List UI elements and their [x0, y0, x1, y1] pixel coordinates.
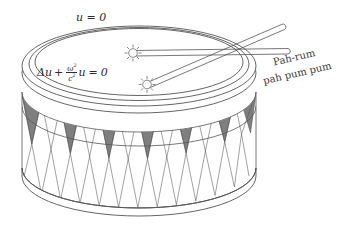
drum-figure: u = 0 Δu+ω2c2u=0 Pah-rum pah pum pum [0, 0, 347, 239]
equation-fraction: ω2c2 [66, 63, 77, 82]
equation-plus-sign: + [54, 66, 63, 79]
boundary-condition-label: u = 0 [76, 11, 106, 24]
equation-u-term: u [78, 66, 85, 79]
drum-illustration [0, 0, 347, 239]
equation-right-hand-side: 0 [101, 66, 108, 79]
equation-laplacian-term: Δu [37, 66, 52, 79]
strike-burst-upper [125, 45, 142, 62]
strike-burst-lower [139, 76, 156, 93]
boundary-condition-text: u = 0 [76, 11, 106, 24]
equation-equals-sign: = [89, 66, 98, 79]
helmholtz-equation-label: Δu+ω2c2u=0 [37, 63, 108, 82]
c-exponent: 2 [72, 72, 75, 78]
equation-fraction-denominator: c2 [66, 73, 77, 82]
omega-exponent: 2 [73, 62, 76, 68]
